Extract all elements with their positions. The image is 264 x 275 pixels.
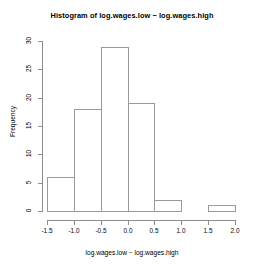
- histogram-bar: [128, 103, 155, 212]
- x-tick-mark: [74, 221, 75, 225]
- y-tick-label: 10: [25, 146, 32, 162]
- histogram-bar: [101, 47, 129, 212]
- y-tick-mark: [38, 98, 42, 99]
- y-tick-mark: [38, 183, 42, 184]
- x-tick-mark: [101, 221, 102, 225]
- y-tick-mark: [38, 126, 42, 127]
- x-tick-mark: [154, 221, 155, 225]
- x-tick-label: -1.5: [34, 227, 60, 234]
- x-tick-label: -1.0: [61, 227, 87, 234]
- y-tick-label: 0: [25, 203, 32, 219]
- x-tick-mark: [47, 221, 48, 225]
- x-tick-label: -0.5: [88, 227, 114, 234]
- y-tick-label: 20: [25, 90, 32, 106]
- histogram-bar: [208, 205, 236, 212]
- y-tick-label: 30: [25, 33, 32, 49]
- x-tick-label: 2.0: [222, 227, 248, 234]
- y-axis-line: [42, 41, 43, 212]
- y-tick-mark: [38, 154, 42, 155]
- histogram-bar: [47, 177, 75, 212]
- histogram-bar: [74, 109, 102, 212]
- x-tick-mark: [128, 221, 129, 225]
- x-tick-mark: [235, 221, 236, 225]
- y-tick-label: 25: [25, 61, 32, 77]
- y-tick-mark: [38, 41, 42, 42]
- y-tick-label: 5: [25, 175, 32, 191]
- y-tick-label: 15: [25, 118, 32, 134]
- x-tick-label: 1.0: [168, 227, 194, 234]
- plot-area: 051015202530 -1.5-1.0-0.50.00.51.01.52.0: [0, 0, 264, 275]
- histogram-figure: Histogram of log.wages.low − log.wages.h…: [0, 0, 264, 275]
- x-axis-title: log.wages.low − log.wages.high: [0, 249, 264, 256]
- x-tick-mark: [208, 221, 209, 225]
- histogram-bar: [154, 200, 182, 212]
- y-tick-mark: [38, 69, 42, 70]
- x-tick-mark: [181, 221, 182, 225]
- y-tick-mark: [38, 211, 42, 212]
- x-tick-label: 0.0: [115, 227, 141, 234]
- x-tick-label: 0.5: [141, 227, 167, 234]
- y-axis-title: Frequency: [9, 92, 16, 152]
- x-tick-label: 1.5: [195, 227, 221, 234]
